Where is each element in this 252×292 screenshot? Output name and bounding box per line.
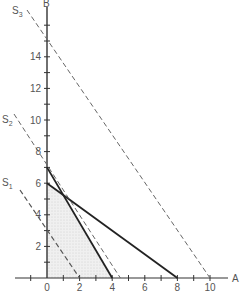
svg-text:0: 0 bbox=[44, 282, 50, 292]
svg-text:2: 2 bbox=[35, 241, 41, 252]
svg-text:8: 8 bbox=[35, 146, 41, 157]
svg-text:4: 4 bbox=[35, 209, 41, 220]
svg-text:10: 10 bbox=[204, 282, 216, 292]
s2-label: S2 bbox=[2, 114, 13, 127]
x-tick-labels: 0 2 4 6 8 10 bbox=[44, 282, 216, 292]
svg-text:6: 6 bbox=[142, 282, 148, 292]
svg-text:6: 6 bbox=[35, 178, 41, 189]
lp-chart: B A S3 S2 S1 0 2 4 6 8 10 2 4 6 8 10 12 … bbox=[0, 0, 252, 292]
svg-text:8: 8 bbox=[175, 282, 181, 292]
s3-label: S3 bbox=[12, 5, 23, 18]
svg-text:2: 2 bbox=[77, 282, 83, 292]
svg-text:4: 4 bbox=[109, 282, 115, 292]
y-axis-label: B bbox=[43, 0, 50, 9]
y-tick-labels: 2 4 6 8 10 12 14 bbox=[30, 51, 42, 252]
feasible-region bbox=[47, 183, 112, 278]
s1-label: S1 bbox=[2, 177, 13, 190]
svg-text:12: 12 bbox=[30, 83, 42, 94]
x-axis-label: A bbox=[232, 273, 239, 284]
svg-text:14: 14 bbox=[30, 51, 42, 62]
svg-text:10: 10 bbox=[30, 115, 42, 126]
